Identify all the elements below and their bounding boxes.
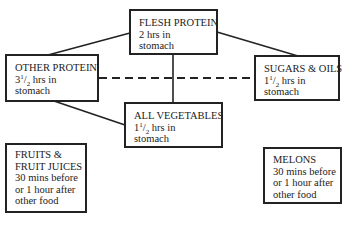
box-fruits-juices: FRUITS & FRUIT JUICES 30 mins before or … <box>5 143 87 213</box>
box-detail: stomach <box>264 86 338 98</box>
box-detail: stomach <box>139 40 216 52</box>
box-other-protein: OTHER PROTEIN 31/2 hrs in stomach <box>5 54 99 102</box>
box-line: other food <box>15 195 85 207</box>
box-line: 30 mins before <box>273 166 340 178</box>
box-all-vegetables: ALL VEGETABLES 11/2 hrs in stomach <box>124 102 223 148</box>
box-line: or 1 hour after <box>15 184 85 196</box>
box-line: 30 mins before <box>15 172 85 184</box>
box-sugars-oils: SUGARS & OILS 11/2 hrs in stomach <box>254 55 340 101</box>
box-title: SUGARS & OILS <box>264 63 338 75</box>
box-melons: MELONS 30 mins before or 1 hour after ot… <box>263 147 342 204</box>
box-line: MELONS <box>273 154 340 166</box>
box-title: OTHER PROTEIN <box>15 62 97 74</box>
box-line: or 1 hour after <box>273 177 340 189</box>
connector-flesh-to-other <box>48 33 130 55</box>
box-detail: stomach <box>15 85 97 97</box>
box-time: 11/2 hrs in <box>264 75 338 87</box>
box-flesh-protein: FLESH PROTEIN 2 hrs in stomach <box>129 9 218 55</box>
box-line: FRUITS & <box>15 149 85 161</box>
box-line: other food <box>273 189 340 201</box>
box-title: ALL VEGETABLES <box>134 110 221 122</box>
box-detail: stomach <box>134 133 221 145</box>
connector-flesh-to-sugars <box>217 32 298 56</box>
box-time: 11/2 hrs in <box>134 122 221 134</box>
connector-other-to-vegetables <box>54 101 125 125</box>
box-time: 2 hrs in <box>139 29 216 41</box>
box-line: FRUIT JUICES <box>15 161 85 173</box>
box-title: FLESH PROTEIN <box>139 17 216 29</box>
box-time: 31/2 hrs in <box>15 74 97 86</box>
